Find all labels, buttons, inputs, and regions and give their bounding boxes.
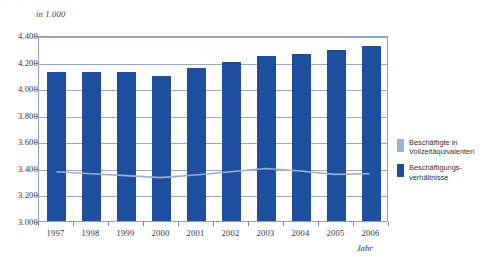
x-tick-label-2001: 2001 xyxy=(187,228,205,238)
x-axis-ticks xyxy=(38,222,388,227)
x-tick-label-2006: 2006 xyxy=(362,228,380,238)
line-series xyxy=(39,37,387,221)
chart-page: · · · · in 1.000 4.4004.2004.0003.8003.6… xyxy=(0,0,502,257)
x-tick-mark xyxy=(318,222,319,226)
x-tick-mark xyxy=(213,222,214,226)
top-clipped-text: · · · · xyxy=(0,0,502,7)
x-tick-mark xyxy=(73,222,74,226)
x-tick-mark xyxy=(178,222,179,226)
x-axis-labels: 1997199819992000200120022003200420052006 xyxy=(38,228,388,242)
x-tick-label-1999: 1999 xyxy=(117,228,135,238)
x-tick-mark xyxy=(143,222,144,226)
x-tick-mark xyxy=(283,222,284,226)
plot-area xyxy=(38,36,388,222)
legend-item-2: Beschäftigungs- verhältnisse xyxy=(397,163,501,181)
legend-swatch-beschaeftigungsverhaeltnisse xyxy=(397,164,404,177)
y-axis-unit-label: in 1.000 xyxy=(36,9,65,19)
x-tick-label-2002: 2002 xyxy=(222,228,240,238)
x-tick-label-1998: 1998 xyxy=(82,228,100,238)
x-tick-mark xyxy=(353,222,354,226)
legend-swatch-vollzeitaequivalente xyxy=(397,139,404,152)
legend-item-1: Beschäftigte in Vollzeitäquivalenten xyxy=(397,138,501,156)
x-tick-label-2003: 2003 xyxy=(257,228,275,238)
x-tick-mark xyxy=(248,222,249,226)
x-tick-label-2004: 2004 xyxy=(292,228,310,238)
line-path-vollzeitaequivalente xyxy=(56,168,369,177)
x-tick-mark xyxy=(388,222,389,226)
legend-label-2: Beschäftigungs- verhältnisse xyxy=(409,163,462,181)
x-tick-label-1997: 1997 xyxy=(47,228,65,238)
chart-legend: Beschäftigte in VollzeitäquivalentenBesc… xyxy=(397,138,501,189)
y-axis: 4.4004.2004.0003.8003.6003.4003.2003.000 xyxy=(0,36,38,222)
x-tick-mark xyxy=(38,222,39,226)
x-tick-mark xyxy=(108,222,109,226)
x-tick-label-2005: 2005 xyxy=(327,228,345,238)
legend-label-1: Beschäftigte in Vollzeitäquivalenten xyxy=(409,138,474,156)
x-tick-label-2000: 2000 xyxy=(152,228,170,238)
x-axis-title: Jahr xyxy=(357,243,373,253)
